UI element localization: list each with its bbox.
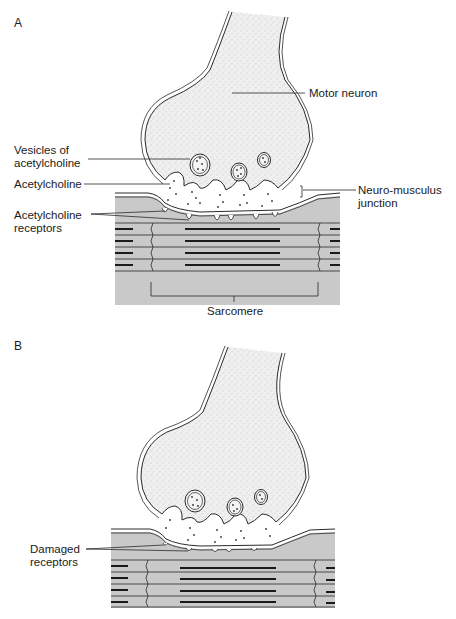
panel-a-label: A [14,16,22,30]
label-receptors-line1: Acetylcholine [14,209,82,221]
label-sarcomere: Sarcomere [207,305,263,317]
label-nmj-line2: junction [357,197,398,209]
label-vesicles-line2: acetylcholine [14,157,80,169]
label-damaged-line1: Damaged [30,543,80,555]
label-nmj-line1: Neuro-musculus [358,184,442,196]
label-motor-neuron: Motor neuron [309,87,377,99]
label-vesicles-line1: Vesicles of [14,144,70,156]
label-damaged-line2: receptors [30,556,78,568]
label-receptors-line2: receptors [14,222,62,234]
motor-neuron-terminal-b [137,346,309,552]
muscle-fiber-a [115,193,340,305]
panel-a: A [14,11,442,317]
panel-b: B [14,339,335,608]
panel-b-label: B [14,339,22,353]
label-acetylcholine: Acetylcholine [14,178,82,190]
motor-neuron-terminal-a [141,11,313,220]
neuromuscular-junction-diagram: A [0,0,456,619]
muscle-fiber-b [111,529,335,608]
